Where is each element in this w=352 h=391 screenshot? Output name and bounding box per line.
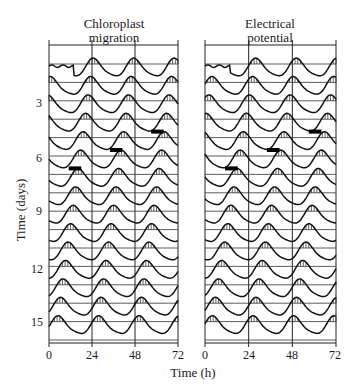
y-tick-label: 3 [36, 96, 42, 110]
y-tick-label: 15 [31, 315, 43, 329]
actogram-chart: 0 24 48 72 0 24 48 72 Time (h) 3 6 9 12 … [0, 0, 352, 391]
stimulus-marker [151, 130, 164, 134]
chloroplast-migration-panel [49, 40, 178, 347]
x-tick-label: 24 [86, 348, 98, 362]
x-axis-right: 0 24 48 72 [202, 348, 341, 362]
x-tick-label: 0 [202, 348, 208, 362]
x-tick-label: 0 [46, 348, 52, 362]
y-axis-title: Time (days) [13, 179, 28, 242]
electrical-potential-panel [205, 40, 336, 347]
x-axis-title: Time (h) [170, 365, 215, 380]
stimulus-marker [309, 130, 322, 134]
x-tick-label: 24 [243, 348, 255, 362]
y-axis: 3 6 9 12 15 [31, 96, 43, 329]
x-tick-label: 72 [329, 348, 341, 362]
stimulus-marker [110, 148, 123, 152]
stimulus-marker [225, 166, 238, 170]
y-tick-label: 6 [36, 151, 42, 165]
stimulus-marker [267, 148, 280, 152]
x-axis-left: 0 24 48 72 [46, 348, 184, 362]
x-tick-label: 48 [129, 348, 141, 362]
stimulus-marker [69, 166, 82, 170]
x-tick-label: 72 [172, 348, 184, 362]
x-tick-label: 48 [286, 348, 298, 362]
y-tick-label: 9 [36, 204, 42, 218]
y-tick-label: 12 [31, 262, 43, 276]
